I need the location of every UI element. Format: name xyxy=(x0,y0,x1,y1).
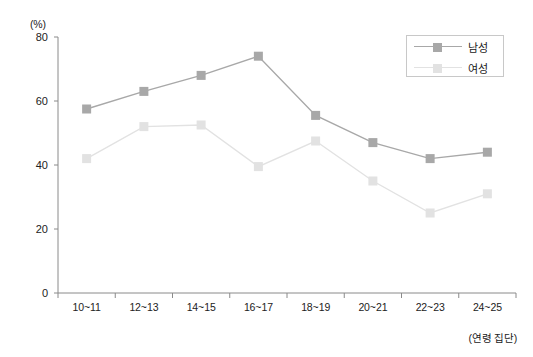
data-point-marker xyxy=(483,189,492,198)
data-point-marker xyxy=(426,209,435,218)
legend-label-female: 여성 xyxy=(468,60,488,76)
y-tick-label: 60 xyxy=(22,95,48,107)
x-tick-label: 22~23 xyxy=(416,301,445,313)
line-chart: (%) (연령 집단) 020406080 10~1112~1314~1516~… xyxy=(0,0,533,357)
x-tick-label: 18~19 xyxy=(301,301,330,313)
legend-swatch-female xyxy=(414,61,462,75)
data-point-marker xyxy=(311,111,320,120)
y-tick-label: 0 xyxy=(22,287,48,299)
legend-swatch-male xyxy=(414,40,462,54)
x-tick-label: 16~17 xyxy=(244,301,273,313)
legend-label-male: 남성 xyxy=(468,39,488,55)
legend-item-female[interactable]: 여성 xyxy=(407,57,503,78)
legend-marker-female-icon xyxy=(433,64,442,73)
series-line-여성 xyxy=(87,125,488,213)
x-tick-label: 20~21 xyxy=(358,301,387,313)
legend-marker-male-icon xyxy=(433,43,442,52)
y-tick-label: 20 xyxy=(22,223,48,235)
data-point-marker xyxy=(197,71,206,80)
data-point-marker xyxy=(254,162,263,171)
chart-legend: 남성 여성 xyxy=(406,35,504,77)
x-tick-label: 10~11 xyxy=(73,301,101,313)
data-point-marker xyxy=(82,154,91,163)
data-point-marker xyxy=(483,148,492,157)
x-axis-ticks xyxy=(58,293,516,298)
legend-item-male[interactable]: 남성 xyxy=(407,36,503,57)
data-point-marker xyxy=(426,154,435,163)
data-point-marker xyxy=(197,121,206,130)
y-tick-label: 40 xyxy=(22,159,48,171)
data-point-marker xyxy=(368,177,377,186)
data-point-marker xyxy=(139,122,148,131)
y-tick-label: 80 xyxy=(22,31,48,43)
data-point-marker xyxy=(311,137,320,146)
x-tick-label: 24~25 xyxy=(473,301,502,313)
data-point-marker xyxy=(82,105,91,114)
data-point-marker xyxy=(139,87,148,96)
y-axis-ticks xyxy=(54,37,58,293)
data-point-marker xyxy=(254,52,263,61)
x-tick-label: 12~13 xyxy=(129,301,158,313)
x-tick-label: 14~15 xyxy=(187,301,216,313)
data-point-marker xyxy=(368,138,377,147)
